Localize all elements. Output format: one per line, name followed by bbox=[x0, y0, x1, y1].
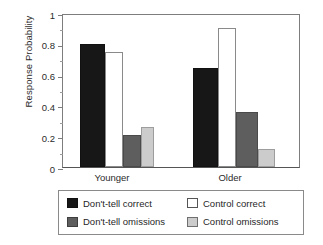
legend-swatch-white-icon bbox=[187, 198, 198, 208]
y-tick-label-0: 0 bbox=[50, 164, 55, 175]
legend-label-donttell-correct: Don't-tell correct bbox=[83, 198, 152, 209]
bar-younger-control-omissions bbox=[141, 127, 154, 167]
legend-label-donttell-omissions: Don't-tell omissions bbox=[83, 216, 165, 227]
bar-younger-donttell-correct bbox=[80, 44, 105, 167]
y-minor-tick-0-3 bbox=[60, 123, 64, 124]
y-minor-tick-0-9 bbox=[60, 30, 64, 31]
legend-swatch-dark-icon bbox=[67, 198, 78, 208]
legend-entry-control-correct: Control correct bbox=[187, 198, 303, 209]
bar-younger-control-correct bbox=[105, 52, 123, 167]
y-tick-label-0-8: 0.8 bbox=[42, 40, 55, 51]
y-tick-0-2: 0.2 bbox=[58, 138, 63, 139]
chart-legend: Don't-tell correct Control correct Don't… bbox=[58, 190, 304, 235]
y-tick-0-4: 0.4 bbox=[58, 107, 63, 108]
legend-swatch-light-icon bbox=[187, 217, 198, 227]
bar-older-control-omissions bbox=[258, 149, 275, 167]
y-tick-label-0-2: 0.2 bbox=[42, 133, 55, 144]
y-tick-0-6: 0.6 bbox=[58, 77, 63, 78]
bar-younger-donttell-omissions bbox=[123, 135, 141, 167]
x-category-younger: Younger bbox=[82, 172, 142, 183]
legend-label-control-omissions: Control omissions bbox=[203, 216, 279, 227]
x-category-older: Older bbox=[200, 172, 260, 183]
y-minor-tick-0-7 bbox=[60, 61, 64, 62]
legend-swatch-gray-icon bbox=[67, 217, 78, 227]
y-minor-tick-0-1 bbox=[60, 154, 64, 155]
y-axis-title: Response Probability bbox=[23, 0, 34, 142]
y-tick-1: 1 bbox=[58, 15, 63, 16]
legend-label-control-correct: Control correct bbox=[203, 198, 265, 209]
y-tick-label-1: 1 bbox=[50, 10, 55, 21]
bar-chart-figure: Response Probability 1 0.8 0.6 0.4 0.2 0 bbox=[0, 0, 323, 245]
y-minor-tick-0-5 bbox=[60, 92, 64, 93]
y-tick-label-0-6: 0.6 bbox=[42, 71, 55, 82]
legend-entry-donttell-correct: Don't-tell correct bbox=[67, 198, 187, 209]
bar-older-control-correct bbox=[218, 28, 236, 167]
y-tick-label-0-4: 0.4 bbox=[42, 102, 55, 113]
plot-area: 1 0.8 0.6 0.4 0.2 0 bbox=[62, 14, 300, 168]
bar-older-donttell-omissions bbox=[236, 112, 258, 167]
y-tick-0: 0 bbox=[58, 169, 63, 170]
legend-entry-donttell-omissions: Don't-tell omissions bbox=[67, 216, 187, 227]
bar-older-donttell-correct bbox=[193, 68, 218, 167]
y-tick-0-8: 0.8 bbox=[58, 46, 63, 47]
legend-entry-control-omissions: Control omissions bbox=[187, 216, 303, 227]
